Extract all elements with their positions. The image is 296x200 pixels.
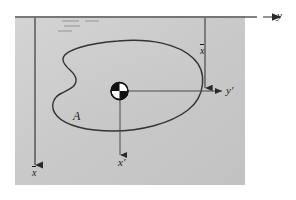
label-x-bar-left-char: x <box>32 168 36 178</box>
diagram-svg <box>0 0 296 200</box>
label-x-prime-axis: x′ <box>118 157 125 168</box>
label-x-bar-left: x <box>32 166 36 178</box>
centroid-icon <box>111 83 128 100</box>
label-x-bar-vertical: x <box>200 44 204 56</box>
label-area: A <box>73 110 80 122</box>
label-x-bar-vertical-char: x <box>200 46 204 56</box>
label-y-prime-axis: y′ <box>226 85 233 96</box>
label-y-axis: y <box>277 10 282 21</box>
figure-canvas: y y′ x′ A x x <box>0 0 296 200</box>
